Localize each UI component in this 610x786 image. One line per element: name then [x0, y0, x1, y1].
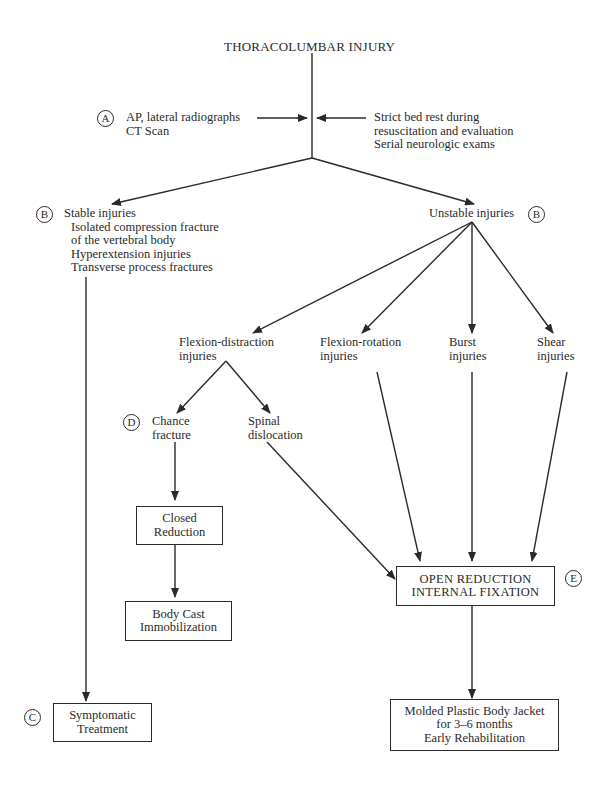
- box-line: Treatment: [54, 723, 151, 737]
- closed-reduction-box: Closed Reduction: [136, 506, 223, 545]
- box-line: Immobilization: [126, 621, 231, 635]
- shear-label: Shear injuries: [537, 336, 575, 363]
- bed-rest-line-2: resuscitation and evaluation: [374, 125, 514, 139]
- marker-b-unstable: B: [528, 206, 545, 223]
- orif-box: OPEN REDUCTION INTERNAL FIXATION: [396, 566, 555, 606]
- box-line: Closed: [137, 512, 222, 526]
- stable-item: Isolated compression fracture: [64, 221, 219, 235]
- type-line-1: Shear: [537, 336, 575, 350]
- chance-line-1: Chance: [152, 415, 191, 429]
- imaging-line-1: AP, lateral radiographs: [126, 111, 240, 125]
- type-line-1: Burst: [449, 336, 487, 350]
- box-line: Reduction: [137, 526, 222, 540]
- body-jacket-box: Molded Plastic Body Jacket for 3–6 month…: [390, 699, 559, 751]
- spinal-line-2: dislocation: [248, 429, 303, 443]
- box-line: for 3–6 months: [391, 718, 558, 732]
- type-line-2: injuries: [320, 350, 401, 364]
- marker-a: A: [97, 110, 114, 127]
- bed-rest-line-3: Serial neurologic exams: [374, 138, 514, 152]
- marker-c: C: [24, 709, 41, 726]
- stable-item: Hyperextension injuries: [64, 248, 219, 262]
- marker-d: D: [123, 414, 140, 431]
- stable-item: of the vertebral body: [64, 234, 219, 248]
- spinal-dislocation-label: Spinal dislocation: [248, 415, 303, 442]
- stable-item: Transverse process fractures: [64, 261, 219, 275]
- type-line-1: Flexion-rotation: [320, 336, 401, 350]
- box-line: Body Cast: [126, 608, 231, 622]
- box-line: Molded Plastic Body Jacket: [391, 705, 558, 719]
- imaging-text: AP, lateral radiographs CT Scan: [126, 111, 240, 138]
- type-line-2: injuries: [537, 350, 575, 364]
- box-line: INTERNAL FIXATION: [397, 586, 554, 600]
- box-line: Early Rehabilitation: [391, 732, 558, 746]
- chance-fracture-label: Chance fracture: [152, 415, 191, 442]
- stable-injuries: Stable injuries Isolated compression fra…: [64, 207, 219, 275]
- box-line: Symptomatic: [54, 709, 151, 723]
- bed-rest-text: Strict bed rest during resuscitation and…: [374, 111, 514, 152]
- body-cast-box: Body Cast Immobilization: [125, 601, 232, 641]
- burst-label: Burst injuries: [449, 336, 487, 363]
- spinal-line-1: Spinal: [248, 415, 303, 429]
- flexion-distraction-label: Flexion-distraction injuries: [179, 336, 274, 363]
- chance-line-2: fracture: [152, 429, 191, 443]
- marker-b-stable: B: [36, 206, 53, 223]
- type-line-2: injuries: [179, 350, 274, 364]
- imaging-line-2: CT Scan: [126, 125, 240, 139]
- unstable-heading: Unstable injuries: [429, 207, 514, 221]
- diagram-title: THORACOLUMBAR INJURY: [224, 40, 395, 54]
- flexion-rotation-label: Flexion-rotation injuries: [320, 336, 401, 363]
- stable-heading: Stable injuries: [64, 207, 219, 221]
- flowchart-connectors: [0, 0, 610, 786]
- type-line-1: Flexion-distraction: [179, 336, 274, 350]
- bed-rest-line-1: Strict bed rest during: [374, 111, 514, 125]
- box-line: OPEN REDUCTION: [397, 573, 554, 587]
- symptomatic-treatment-box: Symptomatic Treatment: [53, 703, 152, 742]
- type-line-2: injuries: [449, 350, 487, 364]
- marker-e: E: [565, 570, 582, 587]
